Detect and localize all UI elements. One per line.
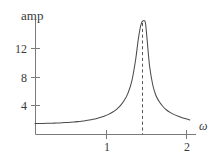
x-axis-title: ω bbox=[199, 120, 207, 132]
y-axis-title: amp bbox=[21, 9, 43, 22]
amplitude-curve bbox=[35, 21, 190, 124]
resonance-amplitude-chart: amp ω 12 8 4 1 2 bbox=[0, 0, 213, 157]
y-tick-label-4: 4 bbox=[9, 100, 27, 112]
y-tick-label-8: 8 bbox=[9, 72, 27, 84]
plot-canvas bbox=[0, 0, 213, 157]
y-tick-label-12: 12 bbox=[9, 43, 27, 55]
x-tick-label-1: 1 bbox=[99, 141, 115, 153]
x-tick-label-2: 2 bbox=[179, 141, 195, 153]
